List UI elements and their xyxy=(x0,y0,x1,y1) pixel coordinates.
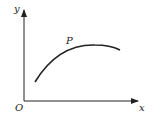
origin-label: O xyxy=(15,103,23,113)
x-axis-label: x xyxy=(139,103,145,113)
curve xyxy=(35,45,120,82)
point-p-label: P xyxy=(66,36,73,46)
y-axis-label: y xyxy=(14,4,20,14)
coordinate-diagram xyxy=(0,0,155,126)
